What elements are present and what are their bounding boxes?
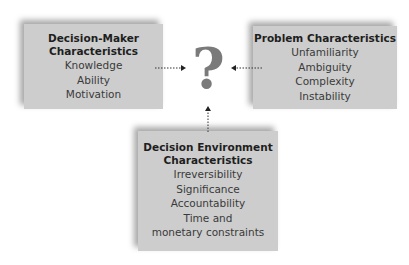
arrow-bottom-to-center [205,106,211,132]
arrow-left-to-center [155,65,186,71]
connector-arrows [0,0,409,265]
arrow-right-to-center [231,65,262,71]
